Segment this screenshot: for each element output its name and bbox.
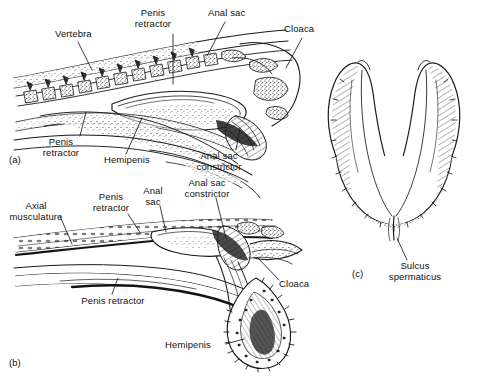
label-anal-sac-b: Anal sac xyxy=(138,186,168,207)
panel-a-id: (a) xyxy=(9,154,21,165)
figure-linework xyxy=(0,0,479,381)
label-penis-retractor-b-top: Penis retractor xyxy=(88,192,134,213)
label-penis-retractor-b-bottom: Penis retractor xyxy=(72,296,154,307)
label-anal-sac-constrictor-a: Anal sac constrictor xyxy=(188,151,250,172)
label-anal-sac-a: Anal sac xyxy=(208,8,245,19)
label-cloaca-b: Cloaca xyxy=(279,279,309,290)
panel-b-drawing xyxy=(14,219,302,372)
label-anal-sac-constrictor-b: Anal sac constrictor xyxy=(176,178,238,199)
label-hemipenis-a: Hemipenis xyxy=(104,155,150,166)
label-penis-retractor-a-bottom: Penis retractor xyxy=(38,137,84,158)
panel-b-id: (b) xyxy=(9,357,21,368)
label-hemipenis-b: Hemipenis xyxy=(160,340,216,351)
panel-a-drawing xyxy=(14,30,300,198)
panel-c-drawing xyxy=(328,60,460,241)
label-axial-musculature-b: Axial musculature xyxy=(5,201,67,222)
label-cloaca-a: Cloaca xyxy=(284,24,314,35)
anatomical-figure: Penis retractor Anal sac Cloaca Vertebra… xyxy=(0,0,479,381)
label-penis-retractor-a-top: Penis retractor xyxy=(130,8,176,29)
panel-c-id: (c) xyxy=(352,268,363,279)
label-sulcus-spermaticus-c: Sulcus spermaticus xyxy=(380,261,450,282)
label-vertebra-a: Vertebra xyxy=(55,29,92,40)
